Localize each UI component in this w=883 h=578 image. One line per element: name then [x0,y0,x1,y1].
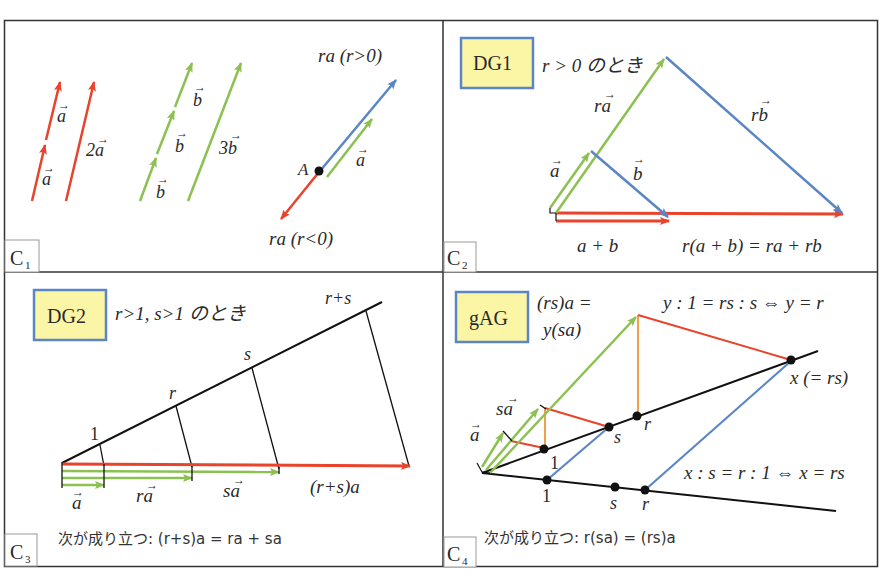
upper-point-x [787,356,796,365]
tick-s [252,368,279,469]
corner-label-c4: C 4 [444,537,476,567]
lower-label-r: r [642,494,650,514]
upper-point-1 [540,445,549,454]
label-ra-negative: ra (r<0) [269,228,333,250]
svg-text:2: 2 [462,259,468,271]
tag-gag: gAG [456,292,528,342]
svg-text:1: 1 [25,259,31,271]
eq-y-sa: y(sa) [541,319,581,341]
svg-text:gAG: gAG [469,307,508,330]
tag-dg2: DG2 [34,290,106,340]
vec-arrow-glyph: → [233,473,245,487]
label-r-plus-s-a: (r+s)a [310,476,360,498]
vec-arrow-glyph: → [43,161,55,175]
red-arrow-r-a-plus-b [556,213,843,214]
label-identity: r(a + b) = ra + rb [682,235,822,257]
vec-arrow-glyph: → [146,478,158,492]
red-arrow-r-plus-s-a [62,464,410,466]
upper-point-s [605,423,614,432]
red-line-sa-s [545,408,609,427]
label-a-plus-b: a + b [577,235,618,256]
label-ra-positive: ra (r>0) [318,45,382,67]
panel-c4: gAG (rs)a = y(sa) y : 1 = rs : s ⇔ y = r [444,292,848,567]
upper-label-s: s [614,427,621,447]
tick-r [176,406,192,467]
conclusion-c3: 次が成り立つ: (r+s)a = ra + sa [58,530,282,548]
svg-text:C: C [10,247,23,269]
vec-arrow-glyph: → [633,152,645,166]
upper-label-r: r [644,414,652,434]
vec-arrow-glyph: → [157,172,169,186]
label-rb: rb [751,104,768,125]
svg-text:DG2: DG2 [47,305,86,327]
vec-arrow-glyph: → [58,98,70,112]
vec-arrow-glyph: → [194,80,206,94]
svg-text:3: 3 [25,553,31,565]
svg-text:C: C [10,541,23,563]
upper-point-r [633,412,642,421]
panel-c1: a → a → 2a → b → b → b → 3b → [5,45,396,272]
vec-arrow-glyph: → [760,93,772,107]
tick-r-plus-s [366,311,409,466]
vec-arrow-glyph: → [357,142,369,156]
svg-text:DG1: DG1 [473,52,512,74]
green-arrow-ra [556,59,664,213]
tick-label-1: 1 [90,424,99,444]
eq-rs-a: (rs)a = [537,292,592,314]
vec-arrow-glyph: → [72,485,84,499]
vec-arrow-glyph: → [230,128,242,142]
red-line-rsa-x [638,315,791,360]
tick-label-r-plus-s: r+s [325,288,351,308]
condition-r-s-gt-1: r>1, s>1 のとき [115,303,246,324]
green-arrow-sa [62,471,279,472]
vec-arrow-glyph: → [507,391,519,405]
ratio-x: x : s = r : 1 ⇔ x = rs [683,462,845,483]
svg-text:4: 4 [462,555,468,567]
green-arrow-b-3 [175,63,192,107]
condition-r-positive: r > 0 のとき [542,55,643,76]
lower-point-1 [543,476,552,485]
corner-label-c2: C 2 [444,242,476,272]
corner-label-c1: C 1 [5,240,39,272]
blue-arrow-rb [666,57,842,213]
tick-label-r: r [169,383,177,403]
conclusion-c4: 次が成り立つ: r(sa) = (rs)a [484,529,676,547]
panel-c3: DG2 r>1, s>1 のとき 1 r s r+s a → ra → sa [5,288,410,566]
vec-arrow-glyph: → [470,417,482,431]
lower-label-s: s [610,493,617,513]
vec-arrow-glyph: → [176,126,188,140]
tick-label-s: s [244,344,251,364]
green-arrow-b-1 [140,158,156,201]
upper-label-1: 1 [550,453,559,473]
svg-text:C: C [447,543,460,565]
ratio-y: y : 1 = rs : s ⇔ y = r [661,292,824,313]
label-point-A: A [297,160,309,179]
panel-c2: DG1 r > 0 のとき ra → rb → a → b → a + b [444,38,843,272]
vec-arrow-glyph: → [551,153,563,167]
tag-dg1: DG1 [461,38,533,88]
blue-arrow-b [591,151,668,217]
vec-arrow-glyph: → [604,87,616,101]
vector-scalar-multiplication-figure: a → a → 2a → b → b → b → 3b → [0,0,883,578]
label-x-eq-rs: x (= rs) [789,367,848,389]
slanted-scale-line [62,302,382,463]
label-b: b [633,163,643,184]
red-arrow-ra-negative [281,172,319,219]
vec-arrow-glyph: → [97,132,109,146]
lower-point-s [611,483,620,492]
lower-label-1: 1 [542,486,551,506]
upper-scale-line [482,351,818,473]
corner-label-c3: C 3 [5,534,37,566]
green-arrow-b-2 [157,111,174,154]
point-A [315,167,324,176]
svg-text:C: C [447,247,460,269]
